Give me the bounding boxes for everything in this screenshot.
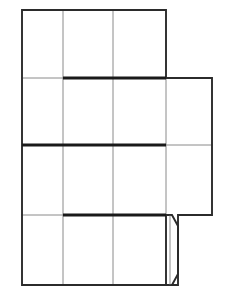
panel-second-row-side-flap [166, 78, 212, 145]
panel-third-row-side-flap [166, 145, 212, 215]
panel-top-row-left-panel [22, 10, 63, 78]
panel-top-row-right-panel [113, 10, 166, 78]
panel-bottom-row-left-panel [22, 215, 63, 285]
panel-bottom-row-right-panel [113, 215, 166, 285]
panel-third-row-center-panel [63, 145, 113, 215]
panel-top-row-center-panel [63, 10, 113, 78]
panel-third-row-right-panel [113, 145, 166, 215]
net-drawing-canvas [0, 0, 231, 305]
box-net-diagram [0, 0, 231, 305]
panel-second-row-center-panel [63, 78, 113, 145]
panel-second-row-left-panel [22, 78, 63, 145]
panel-second-row-right-panel [113, 78, 166, 145]
panel-third-row-left-panel [22, 145, 63, 215]
panel-bottom-row-center-panel [63, 215, 113, 285]
